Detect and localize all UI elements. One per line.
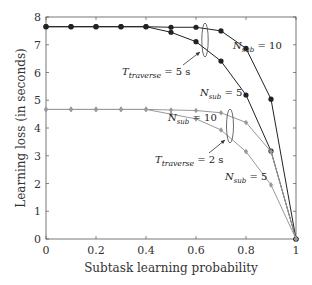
data-point-circle bbox=[243, 92, 248, 97]
data-point-diamond bbox=[119, 107, 123, 113]
data-point-circle bbox=[143, 24, 148, 29]
line-chart: 00.20.40.60.81012345678Subtask learning … bbox=[0, 0, 312, 285]
annotation-label: Ttraverse = 2 s bbox=[155, 154, 224, 168]
x-axis-title: Subtask learning probability bbox=[84, 261, 258, 275]
data-point-circle bbox=[93, 24, 98, 29]
plot-series bbox=[43, 24, 298, 242]
data-point-diamond bbox=[69, 107, 73, 113]
annotations: Ttraverse = 5 sTtraverse = 2 sNsub = 10N… bbox=[122, 23, 282, 185]
y-tick-label: 5 bbox=[34, 94, 41, 107]
arrow-5s-head bbox=[196, 52, 200, 56]
series-line bbox=[46, 27, 296, 239]
x-tick-label: 1 bbox=[293, 244, 300, 257]
data-point-circle bbox=[218, 59, 223, 64]
y-tick-label: 2 bbox=[34, 178, 41, 191]
x-tick-label: 0.4 bbox=[137, 244, 155, 257]
y-tick-label: 6 bbox=[34, 67, 41, 80]
y-tick-label: 1 bbox=[34, 205, 41, 218]
x-tick-label: 0.2 bbox=[87, 244, 105, 257]
data-point-circle bbox=[68, 24, 73, 29]
data-point-circle bbox=[193, 39, 198, 44]
data-point-diamond bbox=[144, 107, 148, 113]
series-1 bbox=[43, 24, 298, 241]
x-tick-label: 0 bbox=[43, 244, 50, 257]
data-point-diamond bbox=[94, 107, 98, 113]
data-point-circle bbox=[168, 25, 173, 30]
x-tick-label: 0.8 bbox=[237, 244, 255, 257]
data-point-diamond bbox=[219, 127, 223, 133]
annotation-label: Nsub = 10 bbox=[167, 112, 217, 126]
annotation-label: Nsub = 5 bbox=[199, 87, 242, 101]
annotation-label: Ttraverse = 5 s bbox=[122, 66, 191, 80]
y-tick-label: 3 bbox=[34, 150, 41, 163]
data-point-diamond bbox=[44, 107, 48, 113]
data-point-circle bbox=[168, 30, 173, 35]
annotation-label: Nsub = 10 bbox=[232, 40, 282, 54]
data-point-circle bbox=[118, 24, 123, 29]
data-point-circle bbox=[218, 28, 223, 33]
y-tick-label: 0 bbox=[34, 233, 41, 246]
data-point-circle bbox=[193, 25, 198, 30]
series-0 bbox=[43, 24, 298, 241]
data-point-circle bbox=[268, 97, 273, 102]
y-tick-label: 4 bbox=[34, 122, 41, 135]
series-line bbox=[46, 27, 296, 239]
y-tick-label: 8 bbox=[34, 11, 41, 24]
y-axis-title: Learning loss (in seconds) bbox=[14, 48, 28, 207]
annotation-label: Nsub = 5 bbox=[224, 171, 267, 185]
data-point-diamond bbox=[219, 110, 223, 116]
y-tick-label: 7 bbox=[34, 39, 41, 52]
data-point-circle bbox=[43, 24, 48, 29]
x-tick-label: 0.6 bbox=[187, 244, 205, 257]
